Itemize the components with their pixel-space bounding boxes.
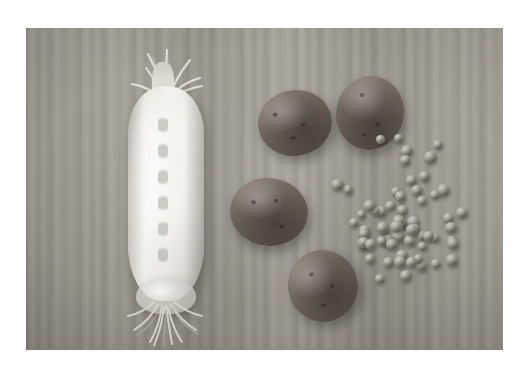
pea <box>419 171 430 182</box>
daikon-root-strands-icon <box>110 278 222 346</box>
daikon-root-dots <box>158 112 167 271</box>
pea <box>406 257 417 268</box>
pea <box>331 179 343 191</box>
pea <box>411 185 422 196</box>
pea <box>363 200 376 213</box>
pea <box>395 191 406 202</box>
pea <box>431 259 441 269</box>
photograph <box>26 28 503 350</box>
pea <box>447 238 459 250</box>
pea <box>375 274 385 284</box>
pea <box>365 254 375 264</box>
pea <box>456 207 467 218</box>
pea <box>385 201 395 211</box>
pea <box>418 242 427 251</box>
pea <box>445 222 457 234</box>
pea <box>376 135 385 144</box>
pea <box>365 239 376 250</box>
pea <box>424 151 436 163</box>
daikon-root-hairs <box>110 278 222 346</box>
pea <box>343 185 352 194</box>
pea <box>433 140 443 150</box>
daikon-radish <box>104 46 234 346</box>
pea <box>357 210 366 219</box>
pea-pile <box>322 124 482 310</box>
pea <box>394 134 403 143</box>
pea <box>400 270 412 282</box>
pea <box>417 196 427 206</box>
pea <box>377 236 386 245</box>
photo-page <box>0 0 529 378</box>
daikon-body <box>128 86 204 301</box>
pea <box>386 239 397 250</box>
pea <box>383 257 394 268</box>
pea <box>430 190 440 200</box>
pea <box>349 218 360 229</box>
pea <box>394 256 406 268</box>
pea <box>446 254 458 266</box>
pea <box>404 235 416 247</box>
pea <box>400 155 411 166</box>
